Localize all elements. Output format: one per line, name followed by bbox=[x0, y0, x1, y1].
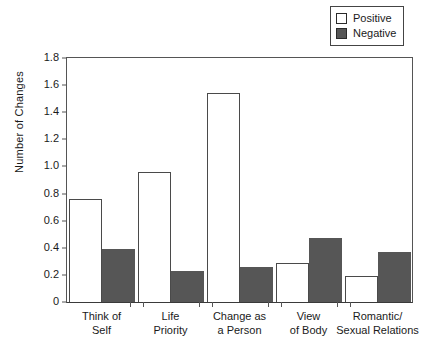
y-axis-tick-label: 0.4 bbox=[44, 239, 59, 254]
x-axis-category-label-line: of Body bbox=[290, 323, 327, 337]
bar-negative bbox=[102, 249, 135, 302]
y-axis-tick-label: 1.4 bbox=[44, 104, 59, 119]
x-axis-tick-mark bbox=[350, 302, 351, 307]
legend-swatch-positive-icon bbox=[336, 13, 347, 24]
x-axis-tick-mark bbox=[268, 302, 269, 307]
x-axis-tick-mark bbox=[130, 302, 131, 307]
bar-negative bbox=[171, 271, 204, 302]
legend-item-negative: Negative bbox=[336, 26, 396, 41]
x-axis-category-label: Romantic/Sexual Relations bbox=[336, 309, 419, 337]
x-axis-tick-mark bbox=[143, 302, 144, 307]
legend-swatch-negative-icon bbox=[336, 28, 347, 39]
bar-positive bbox=[345, 276, 378, 302]
x-axis-category-label-line: Romantic/ bbox=[336, 309, 419, 323]
y-axis-tick-label: 1.0 bbox=[44, 158, 59, 173]
x-axis-tick-mark bbox=[199, 302, 200, 307]
legend-label-positive: Positive bbox=[353, 12, 392, 25]
x-axis-category-label-line: a Person bbox=[213, 323, 266, 337]
x-axis-category-label-line: Think of bbox=[82, 309, 121, 323]
x-axis-category-label: Viewof Body bbox=[290, 309, 327, 337]
bar-chart-figure: Positive Negative Number of Changes 00.2… bbox=[0, 0, 427, 347]
x-axis-category-label-line: Change as bbox=[213, 309, 266, 323]
legend-item-positive: Positive bbox=[336, 11, 396, 26]
plot-area: 00.20.40.60.81.01.21.41.61.8 Think ofSel… bbox=[66, 57, 413, 303]
x-axis-tick-mark bbox=[212, 302, 213, 307]
y-axis-tick-label: 0.8 bbox=[44, 185, 59, 200]
x-axis-tick-mark bbox=[337, 302, 338, 307]
legend-label-negative: Negative bbox=[353, 27, 396, 40]
bar-negative bbox=[309, 238, 342, 302]
y-axis-tick-label: 1.6 bbox=[44, 77, 59, 92]
x-axis-category-label-line: View bbox=[290, 309, 327, 323]
bar-series-container bbox=[67, 58, 412, 302]
y-axis-title: Number of Changes bbox=[13, 52, 25, 192]
y-axis-tick-label: 0.6 bbox=[44, 212, 59, 227]
x-axis-category-label: LifePriority bbox=[153, 309, 187, 337]
x-axis-category-label-line: Life bbox=[153, 309, 187, 323]
y-axis-tick-label: 1.8 bbox=[44, 50, 59, 65]
x-axis-category-label-line: Priority bbox=[153, 323, 187, 337]
x-axis-category-label: Change asa Person bbox=[213, 309, 266, 337]
y-axis-tick-label: 1.2 bbox=[44, 131, 59, 146]
x-axis-category-label: Think ofSelf bbox=[82, 309, 121, 337]
bar-negative bbox=[378, 252, 411, 302]
y-axis-tick-label: 0.2 bbox=[44, 266, 59, 281]
x-axis-tick-mark bbox=[281, 302, 282, 307]
bar-positive bbox=[69, 199, 102, 302]
bar-positive bbox=[207, 93, 240, 302]
chart-legend: Positive Negative bbox=[330, 6, 404, 46]
y-axis-tick-label: 0 bbox=[53, 294, 59, 309]
bar-positive bbox=[138, 172, 171, 302]
bar-negative bbox=[240, 267, 273, 302]
x-axis-category-label-line: Self bbox=[82, 323, 121, 337]
bar-positive bbox=[276, 263, 309, 302]
x-axis-category-label-line: Sexual Relations bbox=[336, 323, 419, 337]
